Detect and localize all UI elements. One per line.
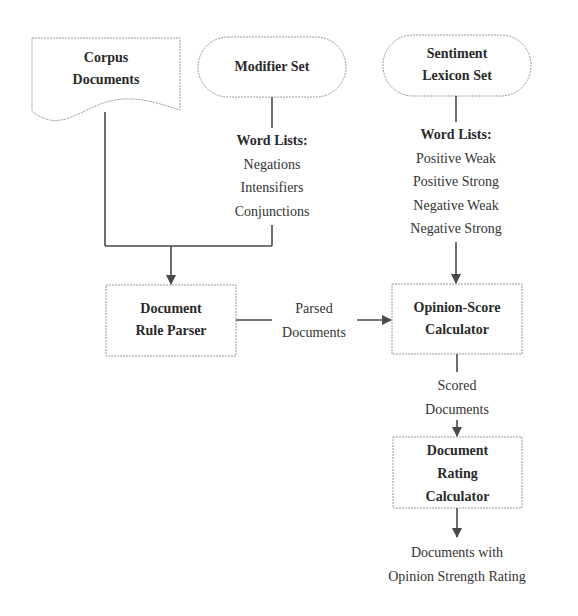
modifier-word-lists-header: Word Lists: — [200, 129, 344, 153]
document-rule-parser-node: Document Rule Parser — [106, 298, 236, 342]
sentiment-lexicon-line2: Lexicon Set — [383, 65, 531, 87]
output-documents-line1: Documents with — [377, 541, 537, 565]
lexicon-list-item: Negative Strong — [376, 217, 536, 241]
lexicon-word-lists-header: Word Lists: — [376, 123, 536, 147]
parsed-documents-label: Parsed Documents — [264, 297, 364, 344]
lexicon-list-item: Positive Weak — [376, 147, 536, 171]
modifier-list-item: Negations — [200, 153, 344, 177]
corpus-documents-node: Corpus Documents — [32, 47, 180, 91]
scored-documents-line2: Documents — [407, 398, 507, 422]
scored-documents-line1: Scored — [407, 374, 507, 398]
scored-documents-label: Scored Documents — [407, 374, 507, 421]
parsed-documents-line2: Documents — [264, 321, 364, 345]
opinion-score-calculator-node: Opinion-Score Calculator — [392, 297, 522, 341]
document-rating-calculator-line2: Rating — [393, 462, 522, 485]
sentiment-lexicon-line1: Sentiment — [383, 43, 531, 65]
modifier-set-label: Modifier Set — [198, 56, 346, 78]
sentiment-lexicon-node: Sentiment Lexicon Set — [383, 43, 531, 87]
modifier-list-item: Intensifiers — [200, 176, 344, 200]
corpus-documents-line2: Documents — [32, 69, 180, 91]
modifier-word-lists: Word Lists: Negations Intensifiers Conju… — [200, 129, 344, 223]
modifier-set-node: Modifier Set — [198, 56, 346, 78]
document-rating-calculator-line3: Calculator — [393, 485, 522, 508]
lexicon-list-item: Negative Weak — [376, 194, 536, 218]
modifier-list-item: Conjunctions — [200, 200, 344, 224]
lexicon-word-lists: Word Lists: Positive Weak Positive Stron… — [376, 123, 536, 241]
opinion-score-calculator-line1: Opinion-Score — [392, 297, 522, 319]
parsed-documents-line1: Parsed — [264, 297, 364, 321]
document-rating-calculator-node: Document Rating Calculator — [393, 439, 522, 508]
lexicon-list-item: Positive Strong — [376, 170, 536, 194]
document-rating-calculator-line1: Document — [393, 439, 522, 462]
opinion-score-calculator-line2: Calculator — [392, 319, 522, 341]
output-documents-label: Documents with Opinion Strength Rating — [377, 541, 537, 588]
document-rule-parser-line1: Document — [106, 298, 236, 320]
document-rule-parser-line2: Rule Parser — [106, 320, 236, 342]
corpus-documents-line1: Corpus — [32, 47, 180, 69]
output-documents-line2: Opinion Strength Rating — [377, 565, 537, 589]
